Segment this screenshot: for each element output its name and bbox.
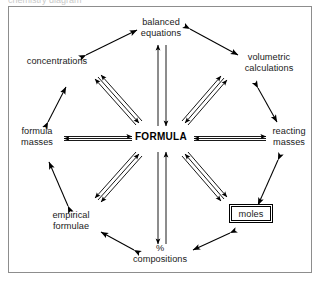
- spoke-percent-compositions: [158, 152, 166, 244]
- node-formula-center[interactable]: FORMULA: [130, 132, 192, 143]
- spoke-balanced-equations: [158, 45, 166, 126]
- node-volumetric-calculations[interactable]: volumetric calculations: [227, 52, 311, 73]
- spoke-moles: [182, 152, 227, 201]
- spoke-formula-masses: [64, 137, 132, 141]
- node-balanced-equations[interactable]: balanced equations: [119, 17, 203, 38]
- node-moles[interactable]: moles: [224, 208, 278, 219]
- node-formula-masses-line1: formula: [8, 126, 66, 137]
- link-empirical-formula-masses: [49, 162, 68, 206]
- node-percent-compositions-line1: %: [117, 243, 203, 254]
- spoke-concentrations: [95, 75, 142, 125]
- spoke-volumetric-calculations: [182, 76, 227, 125]
- node-reacting-masses-line1: reacting: [258, 126, 320, 137]
- node-formula-masses-line2: masses: [8, 137, 66, 148]
- node-reacting-masses[interactable]: reacting masses: [258, 126, 320, 147]
- link-volumetric-reacting: [258, 88, 277, 122]
- node-concentrations-line1: concentrations: [11, 56, 103, 67]
- node-formula-center-label: FORMULA: [132, 130, 190, 143]
- node-moles-label: moles: [231, 206, 272, 221]
- node-empirical-formulae[interactable]: empirical formulae: [35, 210, 107, 231]
- node-empirical-formulae-line1: empirical: [35, 210, 107, 221]
- link-formula-masses-concentrations: [48, 87, 66, 122]
- node-percent-compositions-line2: compositions: [117, 254, 203, 265]
- node-concentrations[interactable]: concentrations: [11, 56, 103, 67]
- node-empirical-formulae-line2: formulae: [35, 221, 107, 232]
- formula-concept-map: chemistry diagram: [0, 0, 322, 282]
- node-balanced-equations-line2: equations: [119, 28, 203, 39]
- node-volumetric-calculations-line1: volumetric: [227, 52, 311, 63]
- node-reacting-masses-line2: masses: [258, 137, 320, 148]
- node-volumetric-calculations-line2: calculations: [227, 63, 311, 74]
- spoke-empirical-formulae: [95, 152, 142, 202]
- node-balanced-equations-line1: balanced: [119, 17, 203, 28]
- link-reacting-moles: [258, 160, 278, 205]
- spoke-reacting-masses: [194, 137, 266, 141]
- node-formula-masses[interactable]: formula masses: [8, 126, 66, 147]
- node-percent-compositions[interactable]: % compositions: [117, 243, 203, 264]
